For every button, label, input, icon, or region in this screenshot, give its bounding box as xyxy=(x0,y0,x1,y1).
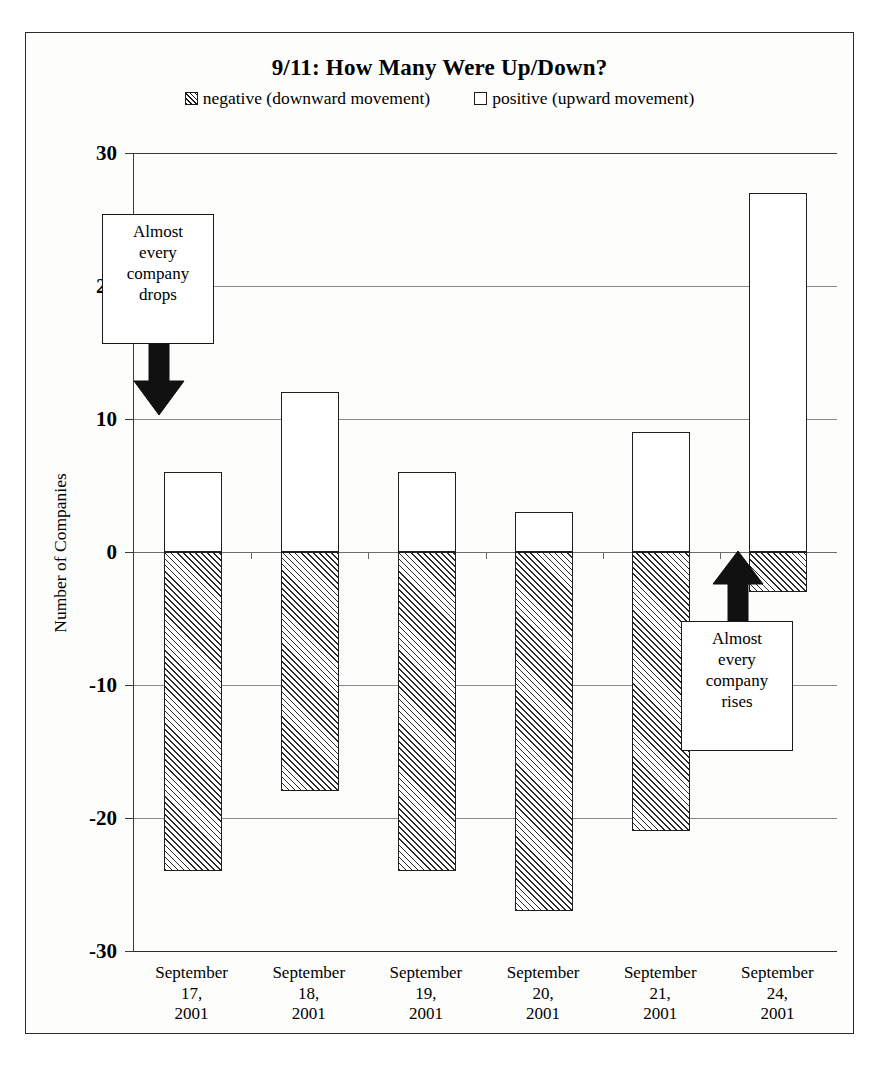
y-axis-tick-label: 30 xyxy=(96,141,117,166)
y-axis-tick-label: 0 xyxy=(107,540,118,565)
bar-segment-negative xyxy=(281,552,339,791)
x-axis-category-label: September18,2001 xyxy=(250,963,367,1025)
x-axis-category-line: September xyxy=(719,963,836,984)
y-axis-tick xyxy=(125,153,134,154)
empty-square-icon xyxy=(474,92,487,105)
x-axis-category-line: September xyxy=(367,963,484,984)
x-axis-category-line: 20, xyxy=(485,984,602,1005)
x-axis-category-line: September xyxy=(133,963,250,984)
chart-title: 9/11: How Many Were Up/Down? xyxy=(26,55,853,81)
y-axis-tick xyxy=(125,818,134,819)
annotation-rises-line3: company xyxy=(684,670,790,691)
x-axis-category-line: 21, xyxy=(602,984,719,1005)
bar-segment-positive xyxy=(398,472,456,552)
y-axis-tick-label: -20 xyxy=(89,806,117,831)
annotation-drops-line2: every xyxy=(105,242,211,263)
bar-segment-positive xyxy=(632,432,690,552)
x-axis-category-line: 2001 xyxy=(133,1004,250,1025)
annotation-rises-line1: Almost xyxy=(684,628,790,649)
x-axis-category-label: September20,2001 xyxy=(485,963,602,1025)
bar-group xyxy=(486,153,603,951)
x-axis-category-line: 2001 xyxy=(367,1004,484,1025)
figure-frame: 9/11: How Many Were Up/Down? negative (d… xyxy=(25,32,854,1034)
bar-group xyxy=(368,153,485,951)
x-axis-labels: September17,2001September18,2001Septembe… xyxy=(133,963,836,1043)
annotation-drops: Almost every company drops xyxy=(102,214,214,344)
x-axis-category-line: 2001 xyxy=(250,1004,367,1025)
chart-legend: negative (downward movement) positive (u… xyxy=(26,88,853,109)
x-axis-category-line: 2001 xyxy=(485,1004,602,1025)
y-axis-tick xyxy=(125,552,134,553)
y-axis-tick-label: -10 xyxy=(89,673,117,698)
x-axis-category-label: September21,2001 xyxy=(602,963,719,1025)
x-axis-category-line: 19, xyxy=(367,984,484,1005)
annotation-drops-line1: Almost xyxy=(105,221,211,242)
x-axis-category-line: 18, xyxy=(250,984,367,1005)
bar-segment-positive xyxy=(164,472,222,552)
y-axis-title: Number of Companies xyxy=(50,473,71,632)
legend-item-negative: negative (downward movement) xyxy=(185,88,430,109)
y-axis-tick-label: -30 xyxy=(89,939,117,964)
hatched-square-icon xyxy=(185,92,198,105)
annotation-drops-line4: drops xyxy=(105,284,211,305)
bar-segment-negative xyxy=(164,552,222,871)
bar-segment-negative xyxy=(398,552,456,871)
legend-label-negative: negative (downward movement) xyxy=(203,88,430,109)
legend-label-positive: positive (upward movement) xyxy=(492,88,694,109)
annotation-rises-line4: rises xyxy=(684,691,790,712)
bar-group xyxy=(603,153,720,951)
annotation-rises-line2: every xyxy=(684,649,790,670)
x-axis-category-label: September19,2001 xyxy=(367,963,484,1025)
bar-segment-negative xyxy=(515,552,573,911)
x-axis-category-line: 17, xyxy=(133,984,250,1005)
legend-item-positive: positive (upward movement) xyxy=(474,88,694,109)
x-axis-category-line: September xyxy=(250,963,367,984)
arrow-down-icon xyxy=(133,341,185,416)
x-axis-category-line: September xyxy=(602,963,719,984)
annotation-rises: Almost every company rises xyxy=(681,621,793,751)
arrow-up-icon xyxy=(712,551,764,623)
y-axis-tick xyxy=(125,419,134,420)
x-axis-category-label: September24,2001 xyxy=(719,963,836,1025)
bar-group xyxy=(251,153,368,951)
x-axis-category-label: September17,2001 xyxy=(133,963,250,1025)
x-axis-category-line: September xyxy=(485,963,602,984)
bar-segment-positive xyxy=(515,512,573,552)
gridline xyxy=(134,951,837,952)
bar-segment-positive xyxy=(281,392,339,552)
y-axis-tick-label: 10 xyxy=(96,407,117,432)
y-axis-tick xyxy=(125,685,134,686)
x-axis-category-line: 24, xyxy=(719,984,836,1005)
y-axis-tick xyxy=(125,951,134,952)
annotation-drops-line3: company xyxy=(105,263,211,284)
bar-segment-positive xyxy=(749,193,807,552)
x-axis-category-line: 2001 xyxy=(602,1004,719,1025)
x-axis-category-line: 2001 xyxy=(719,1004,836,1025)
